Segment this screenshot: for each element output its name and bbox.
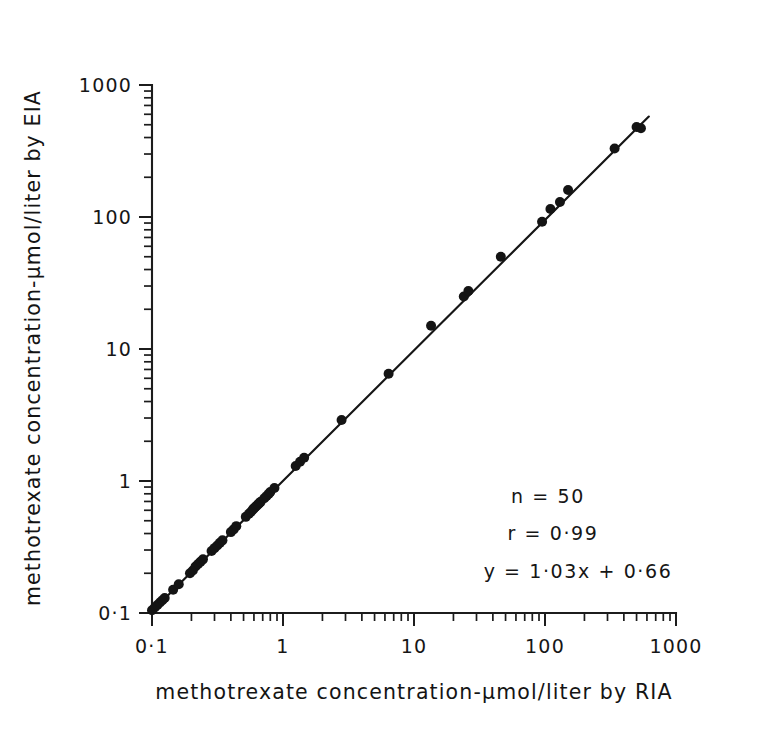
data-point — [299, 453, 309, 463]
data-point — [231, 521, 241, 531]
y-tick-label: 1000 — [79, 74, 132, 96]
y-tick-label: 0·1 — [98, 602, 132, 624]
data-point — [217, 535, 227, 545]
data-point — [198, 554, 208, 564]
x-tick-label: 10 — [401, 635, 428, 657]
data-point — [563, 185, 573, 195]
annotation-sample-size: n = 50 — [511, 485, 585, 507]
data-point — [426, 321, 436, 331]
y-tick-label: 1 — [119, 470, 132, 492]
scatter-plot-figure: 0·11101001000 0·11101001000 n = 50 r = 0… — [0, 0, 778, 740]
data-point — [496, 252, 506, 262]
data-point — [384, 369, 394, 379]
data-point — [610, 144, 620, 154]
x-tick-label: 100 — [525, 635, 565, 657]
data-point — [269, 483, 279, 493]
data-point — [636, 123, 646, 133]
data-point — [337, 415, 347, 425]
y-tick-label: 100 — [92, 206, 132, 228]
annotation-fit-equation: y = 1·03x + 0·66 — [484, 560, 673, 582]
data-point — [463, 286, 473, 296]
data-point — [160, 593, 170, 603]
y-axis-title: methotrexate concentration-μmol/liter by… — [21, 90, 45, 606]
data-point — [174, 579, 184, 589]
x-tick-label: 1000 — [649, 635, 702, 657]
data-point — [555, 197, 565, 207]
x-tick-label: 1 — [276, 635, 289, 657]
annotation-correlation: r = 0·99 — [508, 522, 599, 544]
plot-canvas: 0·11101001000 0·11101001000 n = 50 r = 0… — [0, 0, 778, 740]
data-point — [537, 217, 547, 227]
x-axis-title: methotrexate concentration-μmol/liter by… — [155, 680, 672, 704]
x-tick-label: 0·1 — [135, 635, 169, 657]
y-tick-label: 10 — [105, 338, 132, 360]
data-point — [545, 204, 555, 214]
